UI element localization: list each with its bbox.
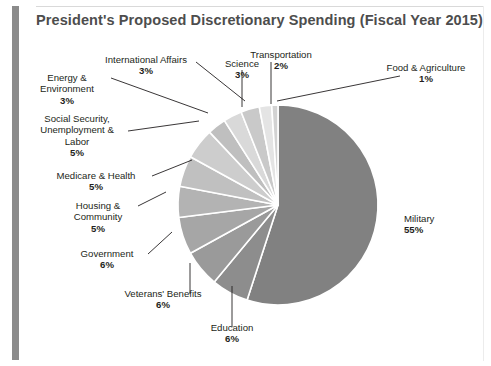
chart-card: President's Proposed Discretionary Spend… <box>0 0 491 366</box>
label-energy-environment-line2: Environment <box>40 83 94 94</box>
label-government-pct: 6% <box>66 259 148 270</box>
label-education-name: Education <box>211 322 254 333</box>
label-international-affairs-name: International Affairs <box>105 54 187 65</box>
label-veterans-benefits-name: Veterans' Benefits <box>124 288 201 299</box>
leader-government <box>148 232 172 254</box>
label-food-agriculture-name: Food & Agriculture <box>387 62 466 73</box>
label-military-pct: 55% <box>404 224 484 235</box>
label-transportation-name: Transportation <box>250 49 312 60</box>
label-energy-environment-line1: Energy & <box>47 72 86 83</box>
label-energy-environment-pct: 3% <box>22 95 112 106</box>
label-social-security: Social Security, Unemployment & Labor 5% <box>26 113 128 159</box>
label-housing-community: Housing & Community 5% <box>58 200 138 234</box>
label-veterans-benefits: Veterans' Benefits 6% <box>108 288 218 311</box>
label-medicare-health-name: Medicare & Health <box>57 170 136 181</box>
label-government-name: Government <box>81 248 134 259</box>
label-veterans-benefits-pct: 6% <box>108 299 218 310</box>
label-energy-environment: Energy & Environment 3% <box>22 72 112 106</box>
label-education-pct: 6% <box>186 333 278 344</box>
label-social-security-line1: Social Security, <box>44 113 109 124</box>
label-transportation-pct: 2% <box>233 60 329 71</box>
label-military: Military 55% <box>404 213 484 236</box>
label-housing-community-line2: Community <box>74 211 123 222</box>
label-education: Education 6% <box>186 322 278 345</box>
label-medicare-health-pct: 5% <box>40 181 152 192</box>
label-housing-community-pct: 5% <box>58 223 138 234</box>
label-social-security-line2: Unemployment & <box>40 124 114 135</box>
label-government: Government 6% <box>66 248 148 271</box>
label-social-security-pct: 5% <box>26 147 128 158</box>
pie-slices <box>178 105 378 305</box>
label-food-agriculture-pct: 1% <box>372 73 480 84</box>
label-military-name: Military <box>404 213 434 224</box>
leader-social-security <box>128 121 199 131</box>
leader-energy-environment <box>111 78 208 113</box>
label-food-agriculture: Food & Agriculture 1% <box>372 62 480 85</box>
label-housing-community-line1: Housing & <box>76 200 120 211</box>
leader-housing-community <box>138 192 166 206</box>
label-medicare-health: Medicare & Health 5% <box>40 170 152 193</box>
label-social-security-line3: Labor <box>65 136 90 147</box>
label-transportation: Transportation 2% <box>233 49 329 72</box>
